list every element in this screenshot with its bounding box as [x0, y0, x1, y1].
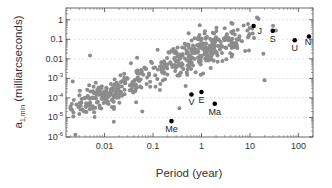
x-tick-label: 0.01 [96, 141, 114, 151]
planet-point-s [270, 29, 275, 34]
planet-label: J [258, 26, 263, 36]
planet-point-j [251, 24, 256, 29]
planet-point-u [292, 38, 297, 43]
y-tick-label: 10-5 [48, 111, 64, 122]
planet-label: Me [165, 124, 178, 134]
x-tick-label: 100 [291, 141, 306, 151]
planet-point-me [169, 119, 174, 124]
planet-label: S [270, 34, 276, 44]
planet-point-e [199, 90, 204, 95]
x-axis-title: Period (year) [156, 167, 223, 179]
x-tick-label: 10 [245, 141, 255, 151]
y-tick-label: 1 [58, 15, 63, 25]
scatter-chart: MeVEMaJSUN 0.010.1110100 10.10.0110-310-… [0, 0, 332, 188]
x-tick-label: 0.1 [147, 141, 160, 151]
planet-label: U [291, 43, 298, 53]
planet-label: E [198, 95, 204, 105]
planet-label: Ma [209, 107, 222, 117]
x-tick-label: 1 [199, 141, 204, 151]
y-tick-label: 0.01 [45, 54, 63, 64]
x-tick-labels: 0.010.1110100 [96, 141, 306, 151]
exoplanet-points [68, 16, 278, 137]
y-axis-title: a1,min (milliarcseconds) [12, 15, 26, 128]
y-tick-label: 0.1 [50, 34, 63, 44]
planet-label: V [188, 97, 194, 107]
y-tick-label: 10-3 [48, 72, 64, 83]
y-tick-labels: 10.10.0110-310-410-510-6 [45, 15, 63, 142]
y-tick-label: 10-4 [48, 92, 64, 103]
y-tick-label: 10-6 [48, 131, 64, 142]
planet-point-ma [212, 102, 217, 107]
planet-point-v [189, 92, 194, 97]
